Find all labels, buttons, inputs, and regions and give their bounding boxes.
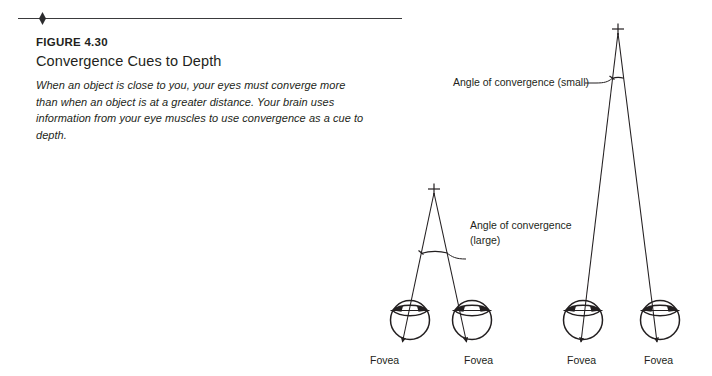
far-right-eyeball — [641, 301, 680, 340]
far-angle-leader-line — [585, 79, 612, 84]
near-right-eyeball — [453, 301, 492, 340]
far-left-eyeball — [564, 301, 603, 340]
convergence-diagram: Angle of convergence (large) — [0, 0, 712, 376]
far-target-cross-icon — [612, 24, 624, 36]
far-left-fovea-label: Fovea — [567, 354, 596, 366]
far-convergence-group: Angle of convergence (small) Fovea Fovea — [453, 24, 680, 367]
near-left-fovea-label: Fovea — [370, 354, 399, 366]
near-convergence-group: Angle of convergence (large) — [370, 184, 572, 367]
near-right-fovea-label: Fovea — [464, 354, 493, 366]
near-angle-leader-line — [447, 253, 466, 259]
near-angle-label-line2: (large) — [470, 234, 500, 246]
far-sight-line-right — [618, 33, 657, 342]
figure-page: FIGURE 4.30 Convergence Cues to Depth Wh… — [0, 0, 712, 376]
far-angle-label: Angle of convergence (small) — [453, 76, 589, 88]
near-angle-label-line1: Angle of convergence — [470, 219, 572, 231]
near-sight-line-right — [434, 193, 467, 342]
far-right-fovea-label: Fovea — [644, 354, 673, 366]
near-angle-arc — [421, 251, 448, 253]
near-target-cross-icon — [428, 184, 440, 196]
